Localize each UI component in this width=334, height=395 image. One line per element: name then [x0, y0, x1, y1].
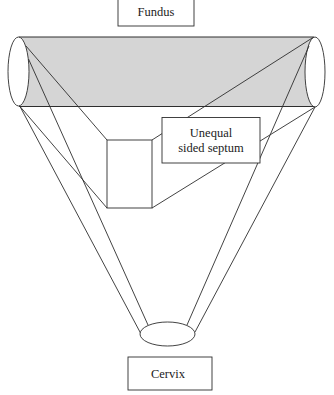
fundal-band — [19, 37, 315, 107]
left-line-to-septum-bottom — [20, 107, 107, 209]
uterus-septum-diagram: Fundus Unequal sided septum Cervix — [0, 0, 334, 395]
fundus-label-box: Fundus — [118, 0, 194, 26]
cervix-label-box: Cervix — [128, 357, 212, 390]
cervix-ellipse — [140, 322, 195, 346]
septum-rectangle — [107, 140, 152, 208]
fundus-label: Fundus — [138, 5, 175, 19]
septum-label-box: Unequal sided septum — [162, 118, 260, 164]
cervix-label: Cervix — [151, 367, 186, 381]
septum-label-line2: sided septum — [178, 141, 244, 155]
left-cornu-ellipse — [8, 37, 29, 106]
septum-label-line1: Unequal — [190, 126, 233, 140]
fundal-cylinder — [8, 37, 325, 107]
